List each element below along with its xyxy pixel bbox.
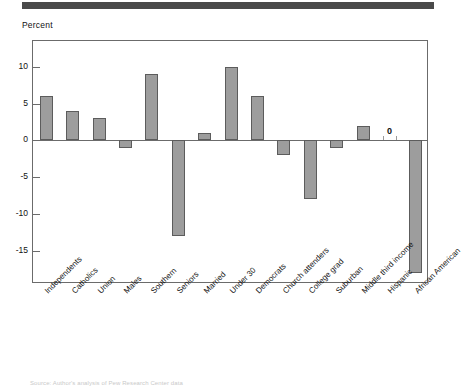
x-axis-tick-label: Under 30 [228,266,258,296]
x-axis-tick-label: Seniors [175,270,201,296]
x-axis-tick-label: Males [122,274,143,295]
x-axis-tick-label: Church attenders [281,246,331,296]
x-axis-tick-label: Union [96,274,117,295]
source-note: Source: Author's analysis of Pew Researc… [30,380,183,386]
x-axis-tick-label: Southern [149,266,178,295]
x-axis-tick-label: Hispanic [386,267,414,295]
x-axis-tick-label: Married [202,270,228,296]
x-axis-tick-label: African American [413,246,462,295]
